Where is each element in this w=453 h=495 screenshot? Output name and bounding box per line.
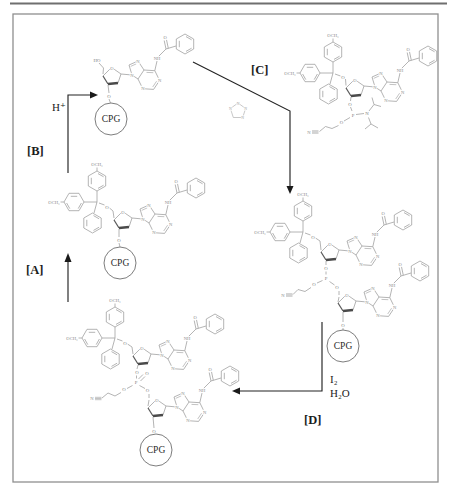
atom-label-p: P (352, 113, 355, 118)
atom-label-o: O (335, 285, 339, 290)
structure-ho-nucleoside-cpg: HO O (94, 34, 194, 135)
atom-label-o: O (122, 387, 126, 392)
label-step-c: [C] (251, 63, 268, 77)
atom-label-o: O (324, 266, 328, 271)
atom-label-o: O (117, 238, 121, 243)
reagent-iodine: I₂ (330, 373, 338, 385)
atom-label-o: O (135, 370, 139, 375)
atom-label-o: O (340, 120, 344, 125)
atom-label-o: O (341, 323, 345, 328)
scheme-canvas: O N N N N NH O (0, 0, 453, 495)
atom-label-o: O (107, 94, 111, 99)
atom-label-p: P (325, 276, 328, 281)
atom-label-o: O (123, 341, 127, 346)
label-step-d: [D] (304, 413, 321, 427)
arrow-step-c: [C] (193, 62, 294, 194)
atom-label-o: O (105, 205, 109, 210)
atom-label-p: P (135, 380, 138, 385)
figure-page: O N N N N NH O (0, 0, 453, 495)
atom-label-o: O (152, 429, 156, 434)
arrow-step-a: [A] (26, 253, 72, 302)
structure-dmt-nucleoside-cpg: O O (48, 162, 204, 280)
reagent-water: H₂O (330, 387, 350, 399)
atom-label-o: O (311, 235, 315, 240)
atom-label-o: O (312, 282, 316, 287)
label-step-a: [A] (26, 263, 43, 277)
atom-label-o: O (341, 75, 345, 80)
atom-label-phosphate-o: O (145, 371, 149, 376)
structure-dinucleotide-phosphite-cpg: O O P O O O (254, 192, 428, 363)
atom-label-o: O (146, 388, 150, 393)
reagent-acid: H⁺ (52, 101, 66, 113)
atom-label-amine-n: N (365, 111, 369, 116)
structure-dinucleotide-phosphate-cpg: O O P O O O O (66, 298, 238, 467)
tetrazole-activator (229, 102, 247, 121)
arrow-step-b: H⁺ [B] (27, 92, 98, 174)
structure-phosphoramidite-monomer: O O P N O (284, 33, 436, 135)
atom-label-o: O (348, 102, 352, 107)
atom-label-ho: HO (94, 58, 101, 63)
label-step-b: [B] (27, 144, 44, 158)
